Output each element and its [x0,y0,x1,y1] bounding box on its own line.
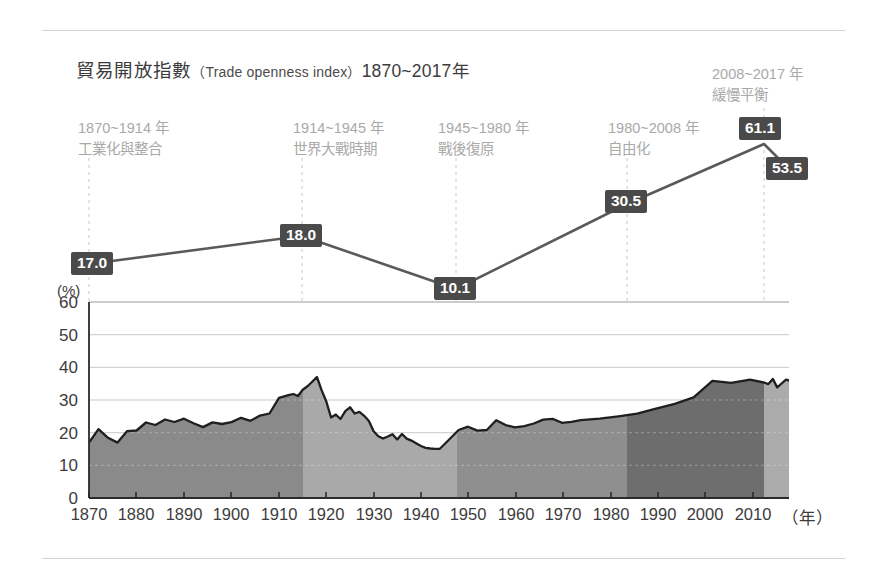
value-badge-1945: 10.1 [434,277,476,300]
y-tick-10: 10 [44,456,78,476]
period-note-1870-1914: 1870~1914 年 工業化與整合 [78,118,169,160]
period-name: 戰後復原 [438,139,529,160]
plot-area [89,296,861,498]
period-divider-lines [89,108,764,498]
period-range: 1914~1945 年 [293,118,384,139]
area-bands [89,296,790,498]
value-badge-1980: 30.5 [605,190,647,213]
page-title: 貿易開放指數（Trade openness index）1870~2017年 [76,56,469,82]
period-range: 1980~2008 年 [608,118,699,139]
band-2008-2017 [764,296,790,498]
title-years: 1870~2017年 [362,61,469,81]
y-tick-20: 20 [44,424,78,444]
period-name: 世界大戰時期 [293,139,384,160]
y-tick-40: 40 [44,358,78,378]
band-1914-1945 [303,296,457,498]
value-badge-2017: 53.5 [766,157,808,180]
period-name: 自由化 [608,139,699,160]
period-note-2008-2017: 2008~2017 年 緩慢平衡 [712,64,803,106]
band-1980-2008 [627,296,764,498]
period-range: 1870~1914 年 [78,118,169,139]
period-range: 1945~1980 年 [438,118,529,139]
top-divider-rule [42,30,845,31]
period-name: 工業化與整合 [78,139,169,160]
x-tick-marks [89,492,753,498]
band-1870-1914 [89,296,303,498]
summary-line [89,144,790,289]
period-name: 緩慢平衡 [712,85,803,106]
bottom-divider-rule [42,558,845,559]
gridlines-over-fill [89,400,789,465]
x-axis-unit-label: （年） [782,505,833,529]
band-1945-1980 [457,296,627,498]
title-main: 貿易開放指數 [76,60,191,81]
y-tick-30: 30 [44,391,78,411]
period-range: 2008~2017 年 [712,64,803,85]
y-tick-50: 50 [44,326,78,346]
y-tick-60: 60 [44,293,78,313]
gridlines [89,302,789,465]
period-note-1945-1980: 1945~1980 年 戰後復原 [438,118,529,160]
area-series-line [89,302,861,449]
value-badge-2008: 61.1 [739,117,781,140]
title-subtitle: （Trade openness index） [191,64,361,80]
x-tick-2010: 2010 [724,505,782,524]
value-badge-1914: 18.0 [280,224,322,247]
period-note-1914-1945: 1914~1945 年 世界大戰時期 [293,118,384,160]
period-note-1980-2008: 1980~2008 年 自由化 [608,118,699,160]
value-badge-1870: 17.0 [71,252,113,275]
